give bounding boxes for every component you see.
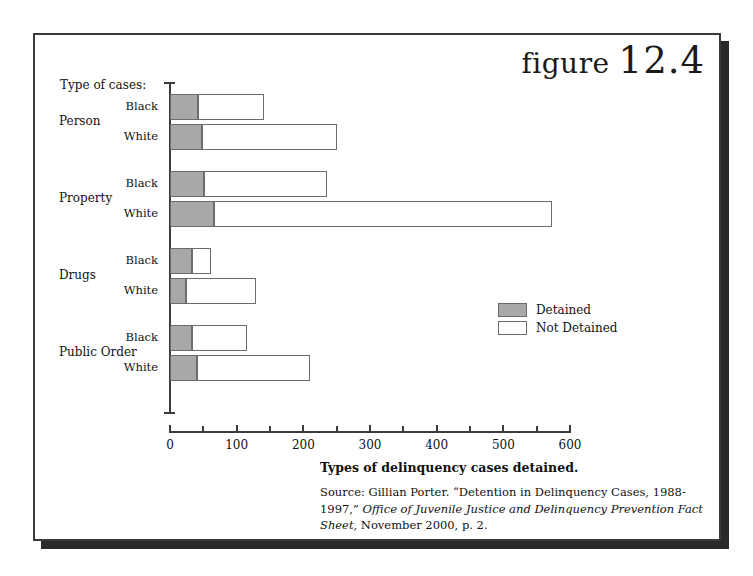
x-tick-label: 400 xyxy=(416,438,458,452)
x-tick-minor xyxy=(469,426,471,432)
caption-source: Source: Gillian Porter. “Detention in De… xyxy=(320,484,710,534)
bar-segment-not-detained xyxy=(204,171,327,197)
caption-source-suffix: , November 2000, p. 2. xyxy=(354,518,488,532)
x-tick-label: 500 xyxy=(482,438,524,452)
x-tick-label: 300 xyxy=(349,438,391,452)
x-tick-minor xyxy=(269,426,271,432)
bar-segment-not-detained xyxy=(186,278,256,304)
x-tick-label: 600 xyxy=(549,438,591,452)
legend-label-detained: Detained xyxy=(536,303,591,317)
legend-swatch-detained xyxy=(498,303,527,317)
x-tick-major xyxy=(502,425,504,432)
bar-segment-not-detained xyxy=(198,94,264,120)
figure-frame: figure 12.4 Type of cases: BlackWhiteBla… xyxy=(33,33,721,541)
bar-segment-detained xyxy=(170,248,192,274)
legend-item-detained: Detained xyxy=(498,303,617,317)
bar-label-white: White xyxy=(88,206,158,220)
legend-item-not-detained: Not Detained xyxy=(498,321,617,335)
bar-segment-not-detained xyxy=(197,355,310,381)
group-label-public-order: Public Order xyxy=(59,345,137,359)
bar-label-white: White xyxy=(88,129,158,143)
legend-swatch-not-detained xyxy=(498,321,527,335)
x-tick-label: 0 xyxy=(149,438,191,452)
x-tick-major xyxy=(236,425,238,432)
bar-label-white: White xyxy=(88,283,158,297)
bar-segment-detained xyxy=(170,325,192,351)
group-label-property: Property xyxy=(59,191,112,205)
x-tick-label: 100 xyxy=(216,438,258,452)
x-tick-major xyxy=(569,425,571,432)
bar-segment-not-detained xyxy=(214,201,552,227)
y-axis-cap-top xyxy=(164,82,175,84)
x-tick-minor xyxy=(202,426,204,432)
x-tick-major xyxy=(369,425,371,432)
chart-legend: Detained Not Detained xyxy=(498,303,617,339)
x-tick-major xyxy=(436,425,438,432)
bar-segment-not-detained xyxy=(192,248,211,274)
x-tick-minor xyxy=(336,426,338,432)
bar-segment-detained xyxy=(170,201,214,227)
group-label-drugs: Drugs xyxy=(59,268,96,282)
bar-label-black: Black xyxy=(88,330,158,344)
x-tick-major xyxy=(302,425,304,432)
bar-label-black: Black xyxy=(88,176,158,190)
y-axis-cap-bottom xyxy=(164,412,175,414)
figure-caption: Types of delinquency cases detained. Sou… xyxy=(320,460,710,534)
x-tick-minor xyxy=(402,426,404,432)
y-axis-title: Type of cases: xyxy=(60,78,146,92)
x-tick-major xyxy=(169,425,171,432)
bar-label-white: White xyxy=(88,360,158,374)
group-label-person: Person xyxy=(59,114,100,128)
bar-label-black: Black xyxy=(88,253,158,267)
caption-title: Types of delinquency cases detained. xyxy=(320,460,710,475)
legend-label-not-detained: Not Detained xyxy=(536,321,617,335)
bar-segment-not-detained xyxy=(192,325,247,351)
bar-segment-detained xyxy=(170,124,202,150)
bar-segment-detained xyxy=(170,355,197,381)
bar-segment-detained xyxy=(170,94,198,120)
x-tick-minor xyxy=(536,426,538,432)
bar-segment-detained xyxy=(170,171,204,197)
bar-segment-not-detained xyxy=(202,124,337,150)
x-tick-label: 200 xyxy=(282,438,324,452)
bar-segment-detained xyxy=(170,278,186,304)
bar-label-black: Black xyxy=(88,99,158,113)
chart-plot-area: Type of cases: BlackWhiteBlackWhiteBlack… xyxy=(35,35,723,543)
